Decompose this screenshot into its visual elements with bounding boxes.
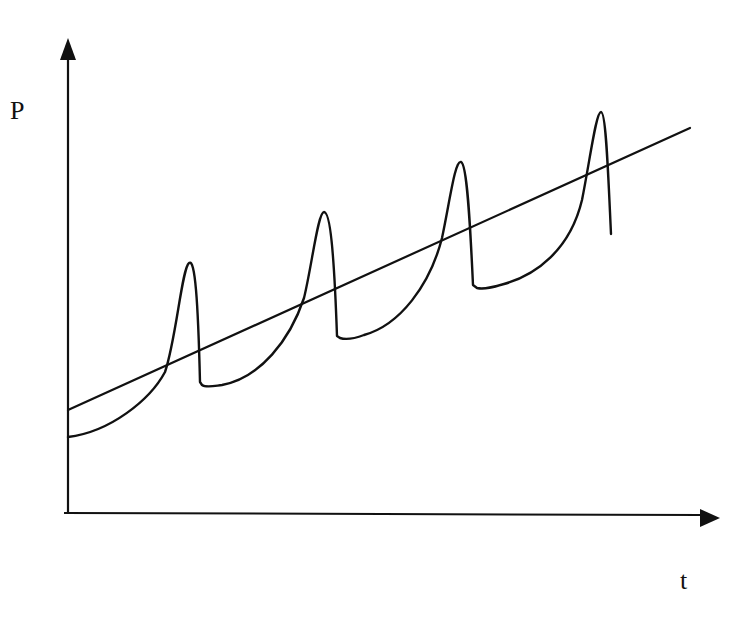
trend-line bbox=[68, 128, 690, 410]
y-axis-arrow-icon bbox=[60, 38, 76, 60]
x-axis-arrow-icon bbox=[700, 509, 720, 527]
y-axis bbox=[60, 38, 76, 513]
x-axis-label: t bbox=[680, 566, 687, 596]
chart-canvas bbox=[0, 0, 752, 618]
y-axis-label: P bbox=[10, 96, 24, 126]
x-axis bbox=[64, 509, 720, 527]
sawtooth-curve bbox=[68, 112, 611, 437]
